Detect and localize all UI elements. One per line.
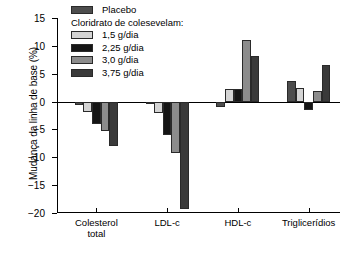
bar [296,88,305,101]
y-tick: −15 [52,185,57,186]
y-tick-label: −5 [34,124,45,135]
bar [225,89,234,101]
bar [313,91,322,102]
legend-swatch-placebo [71,6,93,14]
bar [109,102,118,147]
bar [171,102,180,153]
y-tick: −10 [52,157,57,158]
x-tick [309,208,310,213]
legend-swatch-dose-1-5 [71,31,93,39]
y-tick-label: −15 [28,180,45,191]
legend-item-dose-1-5: 1,5 g/dia [71,29,183,41]
legend-label-dose-1-5: 1,5 g/dia [102,29,138,41]
bar [92,102,101,124]
y-tick-label: 10 [34,40,45,51]
legend-label-dose-2-25: 2,25 g/dia [102,42,144,54]
chart-legend: Placebo Cloridrato de colesevelam: 1,5 g… [71,4,183,79]
bar [83,102,92,112]
y-tick-label: −20 [28,208,45,219]
legend-swatch-dose-3-0 [71,56,93,64]
x-tick [238,208,239,213]
y-tick: 15 [52,18,57,19]
x-category-label: Colesterol total [56,217,136,239]
legend-item-dose-2-25: 2,25 g/dia [71,42,183,54]
bar [216,102,225,108]
x-category-label: HDL-c [198,217,278,228]
x-tick [96,208,97,213]
bar [242,40,251,102]
x-category-label: Triglicerídios [269,217,344,228]
y-tick-label: 0 [39,96,45,107]
bar-chart: Mudança da linha de base (%) 151050−5−10… [0,0,344,255]
y-tick-label: −10 [28,152,45,163]
bar [304,102,313,111]
bar [146,102,155,104]
legend-label-dose-3-75: 3,75 g/dia [102,67,144,79]
bar [180,102,189,210]
y-tick-label: 5 [39,68,45,79]
x-category-label: LDL-c [127,217,207,228]
legend-swatch-dose-3-75 [71,69,93,77]
y-tick: 0 [52,102,57,103]
legend-item-dose-3-75: 3,75 g/dia [71,67,183,79]
bar [163,102,172,135]
y-tick: 5 [52,74,57,75]
legend-label-dose-3-0: 3,0 g/dia [102,54,138,66]
y-axis-line [57,18,58,213]
legend-group-heading: Cloridrato de colesevelam: [71,17,183,29]
legend-item-dose-3-0: 3,0 g/dia [71,54,183,66]
bar [75,102,84,106]
y-tick-label: 15 [34,13,45,24]
y-tick: −5 [52,129,57,130]
x-axis-line [57,212,340,213]
bar [154,102,163,113]
bar [287,81,296,102]
bar [251,56,260,102]
bar [101,102,110,131]
bar [234,89,243,101]
y-tick: −20 [52,213,57,214]
legend-swatch-dose-2-25 [71,44,93,52]
legend-item-placebo: Placebo [71,4,183,16]
legend-label-placebo: Placebo [102,4,136,16]
x-tick [167,208,168,213]
bar [322,65,331,102]
y-tick: 10 [52,46,57,47]
